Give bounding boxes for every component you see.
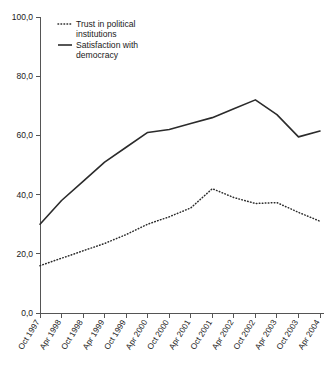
chart-legend: Trust in politicalinstitutionsSatisfacti… [58,19,138,60]
legend-label-2-line2: democracy [76,50,119,60]
y-tick-label: 60,0 [16,130,33,140]
legend-label-1: Trust in political [76,19,135,29]
chart-container: 0,020,040,060,080,0100,0 Oct 1997Apr 199… [0,0,331,369]
legend-label-2: Satisfaction with [76,40,138,50]
x-tick-label: Apr 2004 [296,318,321,351]
series-line-1 [40,189,320,266]
y-axis: 0,020,040,060,080,0100,0 [12,12,40,318]
caption-strip [0,363,331,369]
x-axis: Oct 1997Apr 1998Oct 1998Apr 1999Oct 1999… [16,313,324,351]
y-tick-label: 20,0 [16,249,33,259]
legend-label-1-line2: institutions [76,29,117,39]
y-tick-label: 0,0 [21,308,33,318]
data-series-group [40,100,320,266]
line-chart: 0,020,040,060,080,0100,0 Oct 1997Apr 199… [0,0,331,369]
y-tick-label: 80,0 [16,71,33,81]
y-tick-label: 40,0 [16,190,33,200]
y-tick-label: 100,0 [12,12,34,22]
series-line-2 [40,100,320,224]
